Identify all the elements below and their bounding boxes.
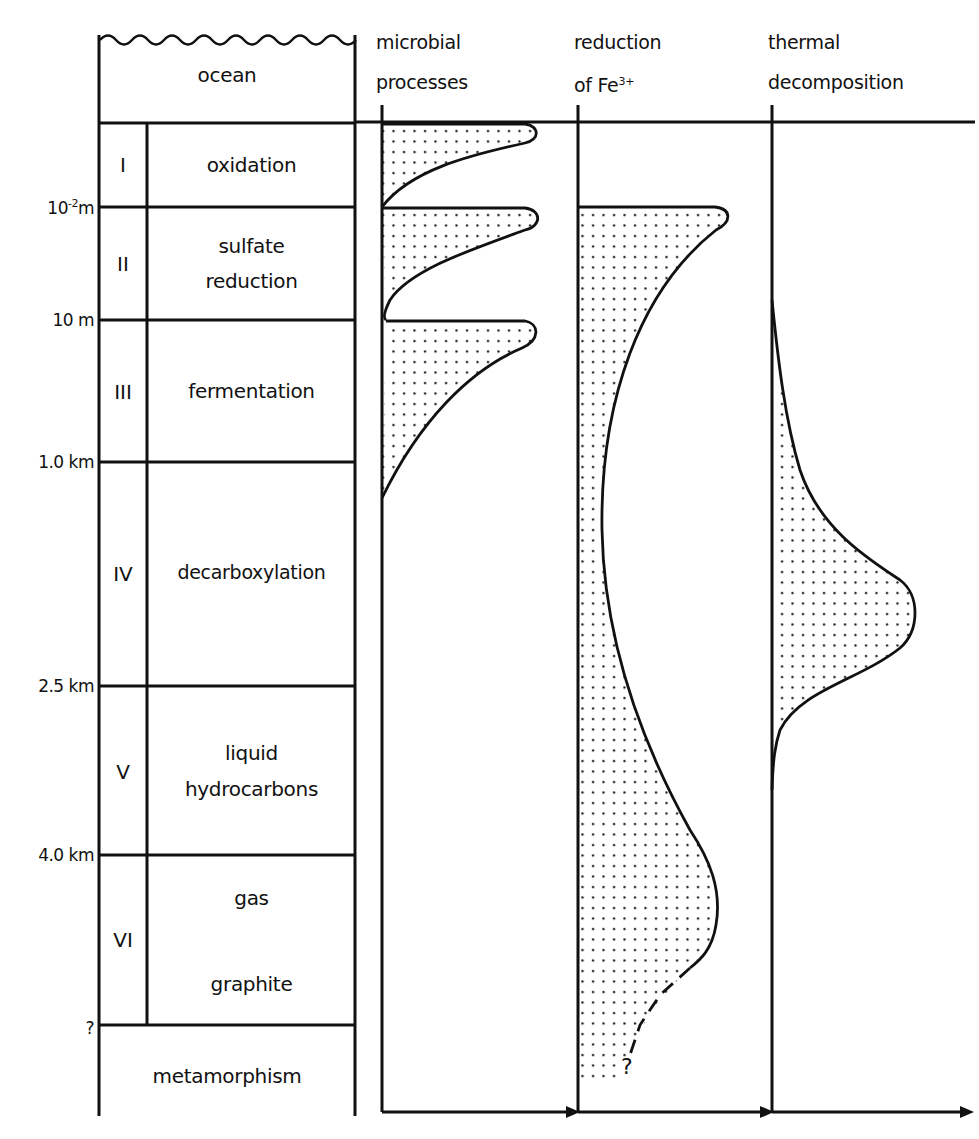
depth-mark-unknown: ?	[4, 1018, 94, 1038]
microbial-fill-fermentation	[382, 321, 536, 498]
depth-mark-10m: 10 m	[4, 310, 94, 330]
bottom-axis-arrows	[382, 1106, 974, 1118]
thermal-header-line2: decomposition	[768, 70, 904, 94]
zone-roman-5: V	[99, 760, 147, 784]
microbial-fill-sulfate	[382, 208, 538, 320]
fe-header-text: of Fe	[574, 74, 618, 96]
zone-roman-6: VI	[99, 928, 147, 952]
zone-name-sulfate-line2: reduction	[148, 270, 355, 292]
fe-header-superscript: 3+	[618, 75, 634, 88]
ocean-wave-line	[100, 36, 356, 45]
zone-roman-2: II	[99, 252, 147, 276]
fe-fill	[578, 207, 728, 1080]
zone-roman-4: IV	[99, 562, 147, 586]
fe-header-line2: of Fe3+	[574, 70, 634, 97]
zone-name-graphite: graphite	[148, 973, 355, 995]
microbial-header-line2: processes	[376, 70, 468, 94]
depth-unit: m	[78, 198, 94, 218]
zone-name-decarboxylation: decarboxylation	[148, 561, 355, 583]
depth-mark-1km: 1.0 km	[4, 452, 94, 472]
depth-mark-1cm: 10-2m	[4, 197, 94, 218]
zone-name-sulfate-line1: sulfate	[148, 235, 355, 257]
depth-base: 10	[47, 198, 68, 218]
thermal-profile	[772, 105, 915, 1112]
microbial-profile	[382, 105, 538, 1112]
microbial-header-line1: microbial	[376, 30, 461, 54]
depth-mark-4km: 4.0 km	[4, 845, 94, 865]
thermal-header-line1: thermal	[768, 30, 840, 54]
zone-name-fermentation: fermentation	[148, 380, 355, 402]
zone-name-gas: gas	[148, 887, 355, 909]
ocean-label: ocean	[99, 64, 355, 86]
zone-roman-3: III	[99, 380, 147, 404]
metamorphism-label: metamorphism	[99, 1065, 355, 1087]
depth-exponent: -2	[68, 197, 78, 210]
fe-header-line1: reduction	[574, 30, 661, 54]
zone-roman-1: I	[99, 153, 147, 177]
zone-name-liquid-line1: liquid	[148, 742, 355, 764]
microbial-fill-oxidation	[382, 124, 536, 207]
thermal-fill	[772, 310, 915, 790]
zone-name-liquid-line2: hydrocarbons	[148, 778, 355, 800]
fe-reduction-profile	[578, 105, 728, 1112]
zone-name-oxidation: oxidation	[148, 154, 355, 176]
fe-uncertain-marker: ?	[621, 1056, 632, 1078]
diagenesis-diagram: ocean microbial processes reduction of F…	[0, 0, 979, 1139]
depth-mark-2-5km: 2.5 km	[4, 676, 94, 696]
